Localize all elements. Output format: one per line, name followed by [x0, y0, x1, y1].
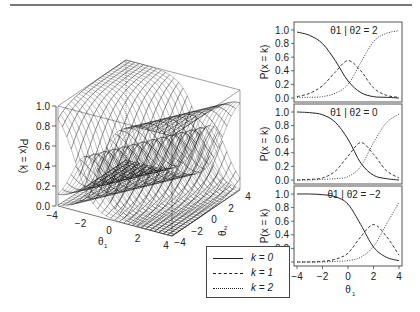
- z-axis-label: P(x = k): [18, 139, 29, 174]
- y-tick-label: 0.8: [275, 38, 289, 49]
- y-tick-label: 1.0: [275, 25, 289, 36]
- y-tick-label: 0.4: [275, 229, 289, 240]
- y-axis-label-subscript: 2: [224, 225, 228, 231]
- y-tick-label: 0.6: [275, 134, 289, 145]
- series-line-dashed: [297, 61, 399, 98]
- y-tick-label: 0.4: [275, 147, 289, 158]
- legend-label: k = 2: [251, 281, 273, 295]
- y-tick-label: 1.0: [275, 107, 289, 118]
- x-tick-label: 0: [345, 271, 351, 282]
- y-tick-label: 0.2: [275, 79, 289, 90]
- z-tick-label: 0.2: [36, 181, 50, 192]
- series-line-dotted: [297, 114, 399, 180]
- y-tick-label: 4: [245, 191, 251, 202]
- legend-item-k1: k = 1: [213, 266, 287, 280]
- z-tick-label: 1.0: [36, 101, 50, 112]
- series-line-solid: [297, 194, 399, 261]
- y-axis-label: P(x = k): [259, 127, 270, 162]
- dashed-line-icon: [213, 273, 243, 274]
- y-tick-label: −4: [174, 237, 186, 248]
- x-tick-label: 0: [106, 225, 112, 236]
- series-line-solid: [297, 32, 399, 98]
- z-tick-label: 0.8: [36, 121, 50, 132]
- line-panel-2: 0.00.20.40.60.81.0P(x = k)θ1 | θ2 = 0: [259, 104, 402, 186]
- x-tick-label: 2: [371, 271, 377, 282]
- series-line-dotted: [297, 31, 399, 98]
- dotted-line-icon: [213, 288, 243, 289]
- x-tick-label: 2: [135, 233, 141, 244]
- z-tick-label: 0.4: [36, 161, 50, 172]
- y-axis-label: P(x = k): [259, 209, 270, 244]
- y-tick-label: 2: [228, 203, 234, 214]
- legend-label: k = 1: [251, 266, 273, 280]
- legend-item-k2: k = 2: [213, 281, 287, 295]
- line-panel-1: 0.00.20.40.60.81.0P(x = k)θ1 | θ2 = 2: [259, 22, 402, 104]
- y-tick-label: 0: [211, 214, 217, 225]
- x-tick-label: −4: [291, 271, 303, 282]
- y-tick-label: 0.0: [275, 93, 289, 104]
- surface-plot: 0.00.20.40.60.81.0P(x = k)−4−2024θ1−4−20…: [18, 60, 251, 251]
- y-tick-label: 0.6: [275, 216, 289, 227]
- y-tick-label: 0.2: [275, 161, 289, 172]
- series-line-dashed: [297, 225, 399, 262]
- x-axis-label: θ: [345, 284, 351, 295]
- panel-title: θ1 | θ2 = 2: [330, 25, 378, 36]
- x-tick-label: 4: [396, 271, 402, 282]
- y-axis-label: P(x = k): [259, 45, 270, 80]
- z-tick-label: 0.6: [36, 141, 50, 152]
- y-tick-label: 0.6: [275, 52, 289, 63]
- legend-label: k = 0: [251, 251, 273, 265]
- panel-title: θ1 | θ2 = −2: [327, 189, 381, 200]
- x-tick-label: −4: [46, 210, 58, 221]
- y-tick-label: 1.0: [275, 189, 289, 200]
- series-line-dashed: [297, 143, 399, 180]
- y-tick-label: 0.4: [275, 65, 289, 76]
- x-tick-label: −2: [317, 271, 329, 282]
- x-axis-label-subscript: 1: [352, 291, 356, 297]
- legend-item-k0: k = 0: [213, 251, 287, 265]
- x-tick-label: 4: [163, 240, 169, 251]
- x-axis-label-subscript: 1: [104, 243, 108, 249]
- y-tick-label: 0.8: [275, 202, 289, 213]
- x-tick-label: −2: [75, 218, 87, 229]
- y-tick-label: 0.8: [275, 120, 289, 131]
- series-line-solid: [297, 112, 399, 180]
- panel-title: θ1 | θ2 = 0: [330, 107, 378, 118]
- y-tick-label: −2: [191, 226, 203, 237]
- solid-line-icon: [213, 258, 243, 259]
- legend: k = 0 k = 1 k = 2: [206, 246, 290, 298]
- y-tick-label: 0.0: [275, 175, 289, 186]
